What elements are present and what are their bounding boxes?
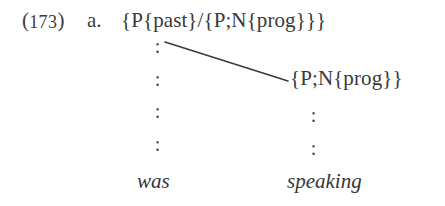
tree-node-root: {P{past}/{P;N{prog}}} xyxy=(121,9,326,31)
ellipsis-glyph: : xyxy=(155,128,161,161)
sub-item-label: a. xyxy=(87,9,102,31)
example-number-paren-close: ) xyxy=(57,8,64,32)
example-number-value: 173 xyxy=(29,12,57,32)
terminal-word-left: was xyxy=(137,170,170,192)
ellipsis-glyph: : xyxy=(155,63,161,96)
ellipsis-column-left: : : : : xyxy=(150,30,165,160)
terminal-word-right: speaking xyxy=(287,170,362,192)
tree-node-right: {P;N{prog}} xyxy=(290,67,403,89)
ellipsis-column-right: : : xyxy=(306,99,321,164)
example-figure: (173) a. {P{past}/{P;N{prog}}} {P;N{prog… xyxy=(0,0,445,206)
ellipsis-glyph: : xyxy=(311,99,317,132)
ellipsis-glyph: : xyxy=(155,30,161,63)
ellipsis-glyph: : xyxy=(311,132,317,165)
example-number: (173) xyxy=(22,9,65,33)
ellipsis-glyph: : xyxy=(155,95,161,128)
